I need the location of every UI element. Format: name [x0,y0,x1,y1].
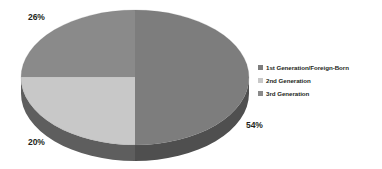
legend-swatch-icon [258,91,263,96]
slice-label-3rd-generation: 26% [28,12,45,22]
legend-swatch-icon [258,78,263,83]
pie-plot-area: 26% 20% 54% [0,0,262,169]
pie-chart: 26% 20% 54% 1st Generation/Foreign-Born … [0,0,382,169]
slice-label-2nd-generation: 20% [28,137,45,147]
legend-item-label: 2nd Generation [266,77,311,84]
slice-label-1st-generation: 54% [246,120,263,130]
legend-item-2nd-generation[interactable]: 2nd Generation [258,74,382,87]
legend-item-3rd-generation[interactable]: 3rd Generation [258,87,382,100]
legend-item-label: 1st Generation/Foreign-Born [266,64,349,71]
pie-slice-2nd-generation [21,78,135,146]
legend-swatch-icon [258,65,263,70]
legend-item-label: 3rd Generation [266,90,309,97]
legend: 1st Generation/Foreign-Born 2nd Generati… [258,61,382,100]
legend-item-1st-generation[interactable]: 1st Generation/Foreign-Born [258,61,382,74]
